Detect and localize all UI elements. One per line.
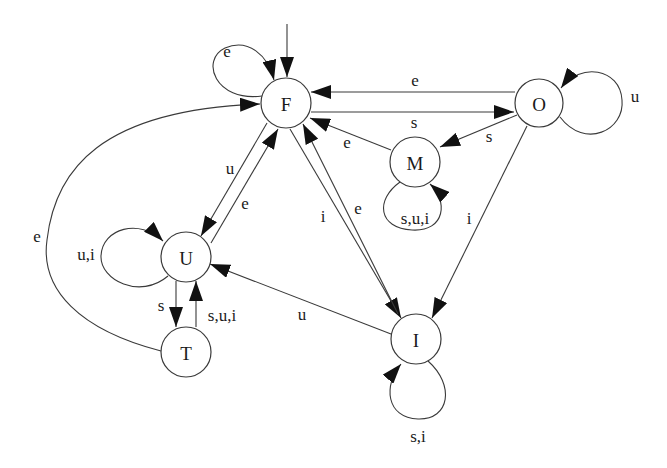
state-label-O: O — [532, 94, 546, 115]
edge-F-to-U — [201, 123, 267, 236]
edge-F-to-I — [290, 129, 401, 318]
edge-label-O-to-M: s — [486, 127, 493, 146]
edge-label-T-to-F: e — [33, 227, 41, 246]
edge-label-U-self: u,i — [77, 245, 95, 264]
state-diagram: e e s u s e s,u,i i u e i e u,i s s,u,i … — [0, 0, 667, 468]
state-U: U — [161, 232, 211, 282]
edge-label-M-to-F: e — [343, 133, 351, 152]
edge-label-I-to-U: u — [298, 305, 307, 324]
edge-I-to-F — [303, 124, 398, 314]
edge-label-F-to-I: i — [321, 207, 326, 226]
edge-label-F-to-U: u — [226, 159, 235, 178]
state-label-I: I — [413, 330, 419, 351]
edge-label-F-to-O: s — [411, 113, 418, 132]
state-label-T: T — [180, 343, 192, 364]
edge-I-self — [390, 361, 445, 419]
edge-label-O-to-F: e — [411, 71, 419, 90]
edge-label-O-self: u — [631, 87, 640, 106]
edge-label-U-to-F: e — [241, 194, 249, 213]
state-F: F — [261, 78, 311, 128]
state-label-U: U — [179, 248, 193, 269]
edge-O-to-M — [440, 115, 517, 147]
edge-U-self — [101, 228, 168, 287]
edge-label-F-self: e — [223, 42, 231, 61]
state-I: I — [391, 314, 441, 364]
edge-I-to-U — [210, 264, 391, 334]
state-M: M — [390, 137, 440, 187]
state-O: O — [515, 79, 563, 127]
edge-U-to-F — [211, 129, 278, 243]
edge-label-I-to-F: e — [354, 199, 362, 218]
edge-label-U-to-T: s — [158, 296, 165, 315]
state-T: T — [161, 327, 211, 377]
state-label-M: M — [407, 153, 424, 174]
edge-O-self — [560, 72, 622, 134]
edge-label-O-to-I: i — [467, 209, 472, 228]
edge-O-to-I — [432, 126, 527, 318]
edge-label-M-self: s,u,i — [401, 209, 430, 228]
state-label-F: F — [281, 94, 292, 115]
edge-label-I-self: s,i — [410, 427, 426, 446]
edge-label-T-to-U: s,u,i — [208, 306, 237, 325]
